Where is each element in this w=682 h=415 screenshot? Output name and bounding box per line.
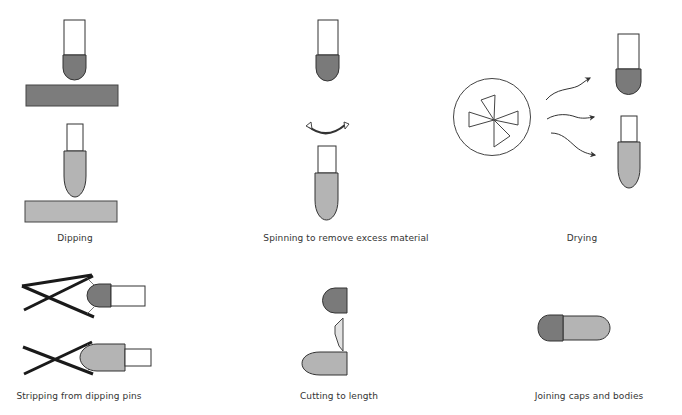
- label-spinning: Spinning to remove excess material: [263, 233, 428, 243]
- joined-cap: [538, 315, 563, 341]
- label-drying: Drying: [567, 233, 597, 243]
- label-stripping: Stripping from dipping pins: [16, 391, 141, 401]
- cut-cap: [323, 288, 348, 313]
- label-dipping: Dipping: [57, 233, 92, 243]
- label-joining: Joining caps and bodies: [535, 391, 644, 401]
- joined-body: [563, 316, 610, 340]
- drying-cap-pin: [616, 34, 641, 95]
- fan-icon: [454, 79, 531, 156]
- cut-body: [302, 352, 347, 375]
- curved-rotation-arrow-icon: [306, 122, 349, 133]
- step-spinning: [306, 20, 349, 220]
- cap-dipping-pin: [63, 20, 86, 80]
- label-cutting: Cutting to length: [300, 391, 378, 401]
- drying-body-pin: [618, 116, 640, 188]
- step-cutting: [302, 288, 347, 375]
- wavy-arrow-icon: [551, 133, 595, 155]
- stripping-body: [23, 342, 151, 374]
- wavy-arrow-icon: [547, 115, 594, 119]
- step-joining: [538, 315, 610, 341]
- body-gelatin-bath: [25, 201, 117, 222]
- cutting-blade-icon: [335, 318, 343, 351]
- step-dipping: [25, 20, 118, 222]
- air-flow-arrows: [546, 78, 595, 155]
- step-drying: [454, 34, 642, 188]
- cap-gelatin-bath: [26, 85, 118, 106]
- spinning-cap-pin: [316, 20, 339, 81]
- stripping-cap: [22, 275, 145, 318]
- capsule-process-diagram: [0, 0, 682, 415]
- step-stripping: [22, 275, 151, 374]
- body-dipping-pin: [64, 124, 86, 197]
- wavy-arrow-icon: [546, 78, 590, 100]
- spinning-body-pin: [315, 146, 338, 220]
